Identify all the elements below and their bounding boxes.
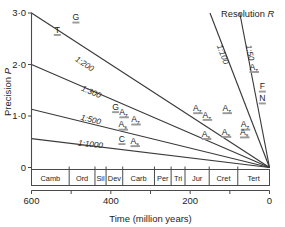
y-tick-label: 0 xyxy=(21,162,26,173)
data-point-marker-bar xyxy=(203,119,213,121)
series-line-1-300 xyxy=(32,65,270,168)
geologic-period-box: CambOrdSilDevCarbPerTriJurCretTert xyxy=(32,167,270,186)
series-line-1-1000 xyxy=(32,139,270,168)
period-label-camb: Camb xyxy=(40,174,60,183)
y-tick-label: 1·0 xyxy=(12,110,26,121)
data-lines-group xyxy=(32,13,270,168)
period-label-tri: Tri xyxy=(174,174,183,183)
period-label-carb: Carb xyxy=(131,174,147,183)
axes-group xyxy=(28,13,270,195)
data-point-As1: As xyxy=(119,119,129,130)
x-tick-label: 200 xyxy=(182,195,198,206)
resolution-annotation: Resolution R xyxy=(221,9,275,19)
period-strip-outline xyxy=(32,170,270,186)
y-tick-label: 3·0 xyxy=(12,7,26,18)
x-tick-label: 600 xyxy=(24,195,40,206)
period-label-dev: Dev xyxy=(108,174,121,183)
data-point-marker-bar xyxy=(119,116,129,118)
data-point-Az2: Az xyxy=(131,114,141,125)
data-point-marker-bar xyxy=(54,34,61,36)
data-point-marker-bar xyxy=(130,145,140,147)
series-line-1-500 xyxy=(32,109,270,167)
data-point-marker-bar xyxy=(222,136,232,138)
data-point-marker-bar xyxy=(112,111,119,113)
data-point-marker-bar xyxy=(249,71,258,73)
slope-label-1-500: 1:500 xyxy=(80,113,102,127)
data-point-As3: As xyxy=(202,129,212,140)
series-line-1-200 xyxy=(32,13,270,168)
data-point-G2: G xyxy=(112,102,119,113)
period-label-jur: Jur xyxy=(192,174,203,183)
x-axis-title: Time (million years) xyxy=(109,213,192,224)
data-point-marker-bar xyxy=(72,22,79,24)
period-label-per: Per xyxy=(157,174,169,183)
series-line-1-50 xyxy=(240,13,270,168)
y-axis-title: Precision P xyxy=(2,67,13,116)
data-point-G1: G xyxy=(72,12,79,23)
data-point-marker-bar xyxy=(119,129,129,131)
y-tick-label: 2·0 xyxy=(12,59,26,70)
data-point-Az7: Az xyxy=(249,62,259,73)
data-point-text: G xyxy=(73,12,80,22)
data-point-labels-group: TGGAzAsAzCAsAzAzAsAzAsAzAsAzFN xyxy=(54,12,266,147)
data-point-marker-bar xyxy=(240,136,250,138)
axis-labels-group: 01·02·03·06004002000Time (million years)… xyxy=(2,7,275,224)
x-tick-label: 400 xyxy=(103,195,119,206)
data-point-text: N xyxy=(259,93,265,103)
data-point-text: F xyxy=(260,81,265,91)
slope-label-1-200: 1:200 xyxy=(73,55,95,74)
data-point-Az3: Az xyxy=(193,103,203,114)
data-point-Az4: Az xyxy=(203,110,213,121)
chart-canvas: CambOrdSilDevCarbPerTriJurCretTert TGGAz… xyxy=(0,0,285,227)
data-point-marker-bar xyxy=(131,124,141,126)
data-point-marker-bar xyxy=(193,112,203,114)
x-tick-label: 0 xyxy=(267,195,272,206)
data-point-T: T xyxy=(54,25,61,36)
period-label-ord: Ord xyxy=(76,174,88,183)
data-point-As4: As xyxy=(222,127,232,138)
slope-label-1-300: 1:300 xyxy=(80,84,103,101)
data-point-N: N xyxy=(259,93,266,104)
data-point-Az1: Az xyxy=(119,107,129,118)
data-point-C: C xyxy=(118,134,125,145)
precision-vs-time-chart: CambOrdSilDevCarbPerTriJurCretTert TGGAz… xyxy=(0,0,285,227)
data-point-Az5: Az xyxy=(222,103,232,114)
data-point-marker-bar xyxy=(202,138,212,140)
data-point-text: T xyxy=(55,25,61,35)
data-point-text: C xyxy=(119,134,125,144)
period-label-sil: Sil xyxy=(96,174,105,183)
data-point-marker-bar xyxy=(259,102,266,104)
data-point-marker-bar xyxy=(118,143,125,145)
slope-label-1-50: 1:50 xyxy=(244,44,256,62)
slope-label-1-100: 1:100 xyxy=(215,43,231,66)
period-label-cret: Cret xyxy=(217,174,231,183)
period-label-tert: Tert xyxy=(247,174,259,183)
data-point-marker-bar xyxy=(223,112,233,114)
data-point-As2: As xyxy=(130,136,140,147)
slope-label-1-1000: 1:1000 xyxy=(78,138,104,150)
data-point-text: G xyxy=(112,102,119,112)
data-point-F: F xyxy=(259,81,266,92)
